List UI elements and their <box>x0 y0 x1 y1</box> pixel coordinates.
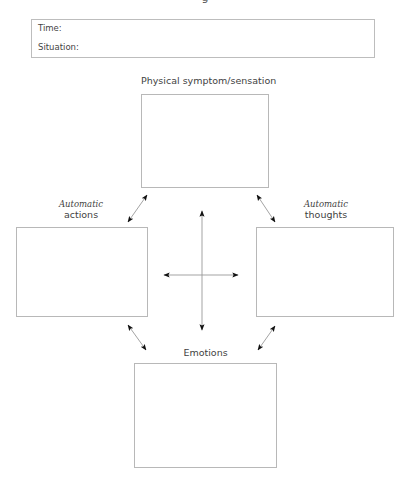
arrow-physical-thoughts <box>257 195 275 222</box>
connection-arrows <box>0 0 410 483</box>
arrow-physical-actions <box>128 195 147 222</box>
arrow-thoughts-emotions <box>258 326 275 350</box>
arrow-actions-emotions <box>128 325 146 350</box>
